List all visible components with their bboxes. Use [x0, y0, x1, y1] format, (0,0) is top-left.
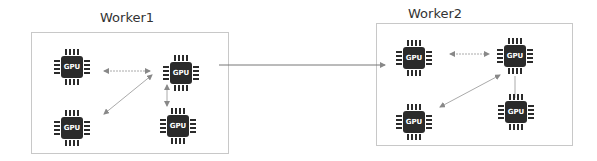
pin	[396, 63, 402, 65]
pin	[513, 94, 515, 100]
pin	[193, 78, 199, 80]
pin	[419, 40, 421, 46]
pin	[77, 49, 79, 55]
pin	[498, 109, 504, 111]
pin	[190, 119, 196, 121]
pin	[527, 57, 533, 59]
pin	[512, 68, 514, 74]
pin	[193, 66, 199, 68]
pin	[411, 70, 413, 76]
pin	[77, 79, 79, 85]
pin	[84, 129, 90, 131]
pin	[84, 133, 90, 135]
pin	[84, 68, 90, 70]
gpu-chip-icon: GPU	[52, 47, 92, 87]
pin	[54, 129, 60, 131]
pin	[498, 105, 504, 107]
pin	[426, 119, 432, 121]
pin	[54, 60, 60, 62]
pin	[175, 108, 177, 114]
pin	[54, 64, 60, 66]
pin	[520, 68, 522, 74]
gpu-label: GPU	[403, 47, 425, 69]
pin	[193, 74, 199, 76]
pin	[190, 123, 196, 125]
pin	[426, 123, 432, 125]
gpu-label: GPU	[61, 56, 83, 78]
pin	[54, 72, 60, 74]
pin	[163, 70, 169, 72]
pin	[54, 125, 60, 127]
pin	[527, 53, 533, 55]
pin	[415, 104, 417, 110]
pin	[509, 124, 511, 130]
pin	[396, 59, 402, 61]
pin	[193, 70, 199, 72]
pin	[497, 61, 503, 63]
pin	[77, 110, 79, 116]
pin	[528, 117, 534, 119]
pin	[426, 51, 432, 53]
pin	[415, 70, 417, 76]
pin	[163, 78, 169, 80]
connection-arrow	[440, 75, 500, 107]
gpu-label: GPU	[61, 117, 83, 139]
gpu-label: GPU	[167, 115, 189, 137]
pin	[84, 60, 90, 62]
pin	[160, 123, 166, 125]
pin	[84, 64, 90, 66]
pin	[73, 79, 75, 85]
gpu-label: GPU	[505, 101, 527, 123]
pin	[84, 72, 90, 74]
gpu-chip-icon: GPU	[394, 38, 434, 78]
pin	[73, 49, 75, 55]
pin	[65, 79, 67, 85]
pin	[179, 138, 181, 144]
pin	[426, 55, 432, 57]
gpu-chip-icon: GPU	[394, 102, 434, 142]
pin	[411, 40, 413, 46]
pin	[508, 68, 510, 74]
pin	[516, 68, 518, 74]
pin	[528, 113, 534, 115]
pin	[396, 115, 402, 117]
pin	[174, 55, 176, 61]
pin	[182, 85, 184, 91]
pin	[182, 55, 184, 61]
pin	[178, 85, 180, 91]
pin	[520, 38, 522, 44]
pin	[498, 117, 504, 119]
pin	[77, 140, 79, 146]
pin	[54, 121, 60, 123]
gpu-chip-icon: GPU	[161, 53, 201, 93]
pin	[160, 131, 166, 133]
pin	[419, 104, 421, 110]
gpu-label: GPU	[504, 45, 526, 67]
gpu-chip-icon: GPU	[158, 106, 198, 146]
pin	[407, 70, 409, 76]
pin	[411, 104, 413, 110]
pin	[69, 79, 71, 85]
pin	[419, 134, 421, 140]
pin	[528, 105, 534, 107]
pin	[171, 138, 173, 144]
pin	[174, 85, 176, 91]
pin	[521, 94, 523, 100]
pin	[508, 38, 510, 44]
pin	[509, 94, 511, 100]
pin	[65, 49, 67, 55]
pin	[186, 85, 188, 91]
gpu-label: GPU	[403, 111, 425, 133]
gpu-chip-icon: GPU	[495, 36, 535, 76]
pin	[65, 140, 67, 146]
pin	[54, 133, 60, 135]
pin	[527, 49, 533, 51]
pin	[498, 113, 504, 115]
pin	[65, 110, 67, 116]
pin	[160, 119, 166, 121]
pin	[73, 110, 75, 116]
pin	[396, 123, 402, 125]
pin	[73, 140, 75, 146]
pin	[497, 57, 503, 59]
pin	[190, 131, 196, 133]
